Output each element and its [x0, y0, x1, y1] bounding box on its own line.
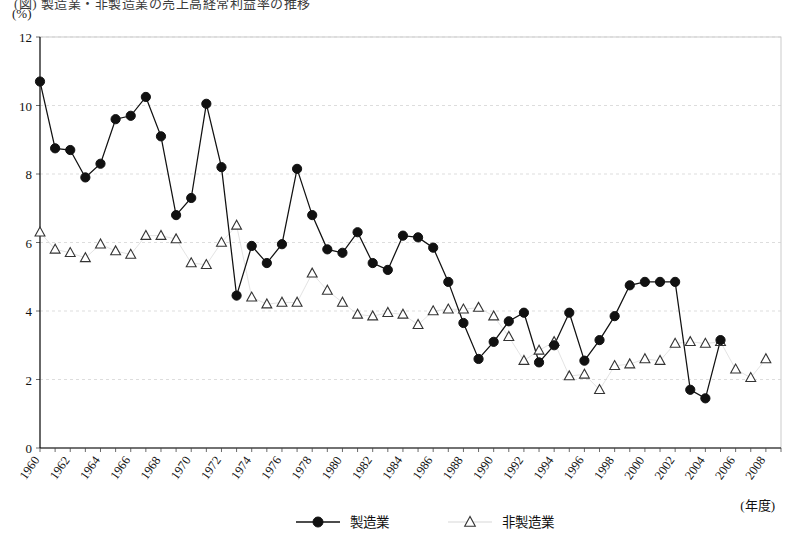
x-axis-tick-label: 1994	[531, 453, 557, 482]
data-point-manufacturing	[398, 231, 407, 240]
chart-plot-area: 0246810121960196219641966196819701972197…	[0, 0, 794, 544]
x-axis-title: (年度)	[740, 498, 775, 513]
data-point-manufacturing	[655, 277, 664, 286]
data-point-manufacturing	[81, 173, 90, 182]
data-point-manufacturing	[126, 111, 135, 120]
figure-title-clipped: (図) 製造業・非製造業の売上高経常利益率の推移	[14, 0, 311, 12]
y-axis-tick-label: 12	[19, 30, 32, 45]
x-axis-tick-label: 1974	[228, 453, 254, 482]
x-axis-tick-label: 1990	[470, 454, 496, 483]
x-axis-tick-label: 1970	[168, 454, 194, 483]
x-axis-tick-label: 1962	[47, 454, 73, 483]
x-axis-tick-label: 1968	[138, 454, 164, 483]
data-point-manufacturing	[353, 228, 362, 237]
data-point-manufacturing	[716, 336, 725, 345]
data-point-manufacturing	[671, 277, 680, 286]
data-point-manufacturing	[232, 291, 241, 300]
data-point-manufacturing	[277, 240, 286, 249]
data-point-manufacturing	[292, 164, 301, 173]
x-axis-tick-label: 2006	[712, 454, 738, 483]
y-axis-tick-label: 4	[26, 304, 33, 319]
data-point-manufacturing	[413, 233, 422, 242]
data-point-manufacturing	[444, 277, 453, 286]
data-point-manufacturing	[35, 77, 44, 86]
data-point-manufacturing	[202, 99, 211, 108]
data-point-manufacturing	[172, 211, 181, 220]
data-point-manufacturing	[640, 277, 649, 286]
x-axis-tick-label: 1966	[107, 454, 133, 483]
x-axis-tick-label: 1996	[561, 454, 587, 483]
legend-marker-manufacturing	[313, 517, 323, 527]
data-point-manufacturing	[686, 385, 695, 394]
data-point-manufacturing	[262, 258, 271, 267]
x-axis-tick-label: 1984	[380, 453, 406, 482]
data-point-manufacturing	[217, 163, 226, 172]
data-point-manufacturing	[338, 248, 347, 257]
data-point-manufacturing	[459, 318, 468, 327]
data-point-manufacturing	[565, 308, 574, 317]
data-point-manufacturing	[534, 358, 543, 367]
data-point-manufacturing	[323, 245, 332, 254]
x-axis-tick-label: 1992	[501, 454, 527, 483]
x-axis-tick-label: 2000	[622, 454, 648, 483]
y-axis-tick-label: 6	[26, 236, 33, 251]
x-axis-tick-label: 1978	[289, 454, 315, 483]
legend-label-nonmanufacturing: 非製造業	[502, 515, 555, 530]
data-point-manufacturing	[383, 265, 392, 274]
data-point-manufacturing	[489, 337, 498, 346]
data-point-manufacturing	[51, 144, 60, 153]
data-point-manufacturing	[474, 354, 483, 363]
x-axis-tick-label: 1964	[77, 453, 103, 482]
legend-marker-nonmanufacturing	[465, 516, 476, 526]
data-point-manufacturing	[156, 132, 165, 141]
x-axis-tick-label: 1982	[349, 454, 375, 483]
x-axis-tick-label: 1998	[591, 454, 617, 483]
x-axis-tick-label: 2008	[743, 454, 769, 483]
data-point-manufacturing	[504, 317, 513, 326]
data-point-manufacturing	[625, 281, 634, 290]
data-point-manufacturing	[66, 145, 75, 154]
data-point-manufacturing	[111, 115, 120, 124]
x-axis-tick-label: 1980	[319, 454, 345, 483]
y-axis-tick-label: 10	[19, 99, 32, 114]
plot-background	[40, 37, 781, 448]
data-point-manufacturing	[429, 243, 438, 252]
y-axis-tick-label: 2	[26, 373, 33, 388]
chart-figure: (図) 製造業・非製造業の売上高経常利益率の推移 (%) 02468101219…	[0, 0, 794, 544]
data-point-manufacturing	[610, 312, 619, 321]
x-axis-tick-label: 1976	[259, 454, 285, 483]
x-axis-tick-label: 2004	[682, 453, 708, 482]
x-axis-tick-label: 1972	[198, 454, 224, 483]
y-axis-unit-label: (%)	[12, 6, 32, 22]
data-point-manufacturing	[187, 193, 196, 202]
data-point-manufacturing	[701, 394, 710, 403]
data-point-manufacturing	[550, 341, 559, 350]
legend-label-manufacturing: 製造業	[350, 515, 390, 530]
data-point-manufacturing	[368, 258, 377, 267]
data-point-manufacturing	[247, 241, 256, 250]
x-axis-tick-label: 1988	[440, 454, 466, 483]
data-point-manufacturing	[519, 308, 528, 317]
data-point-manufacturing	[96, 159, 105, 168]
data-point-manufacturing	[580, 356, 589, 365]
x-axis-tick-label: 1960	[17, 454, 43, 483]
y-axis-tick-label: 8	[26, 167, 33, 182]
x-axis-tick-label: 1986	[410, 454, 436, 483]
data-point-manufacturing	[595, 336, 604, 345]
data-point-manufacturing	[308, 211, 317, 220]
x-axis-tick-label: 2002	[652, 454, 678, 483]
data-point-manufacturing	[141, 92, 150, 101]
